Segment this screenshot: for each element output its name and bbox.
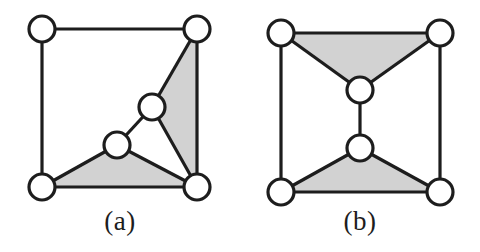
inner-upper-node (139, 94, 165, 120)
diagram-panel-b: (b) (240, 0, 480, 252)
diagram-b-canvas (240, 0, 480, 210)
bottom-left-node (268, 179, 294, 205)
middle-upper-node (347, 77, 373, 103)
top-right-node (427, 20, 453, 46)
bottom-right-node (184, 174, 210, 200)
top-left-node (268, 20, 294, 46)
middle-lower-node (347, 135, 373, 161)
panel-a-caption: (a) (0, 204, 240, 238)
panel-b-caption: (b) (240, 204, 480, 238)
bottom-left-node (29, 174, 55, 200)
figure-root: (a) (b) (0, 0, 480, 252)
top-left-node (29, 16, 55, 42)
top-right-node (184, 16, 210, 42)
diagram-a-canvas (0, 0, 240, 210)
diagram-panel-a: (a) (0, 0, 240, 252)
bottom-right-node (427, 179, 453, 205)
inner-lower-node (104, 132, 130, 158)
